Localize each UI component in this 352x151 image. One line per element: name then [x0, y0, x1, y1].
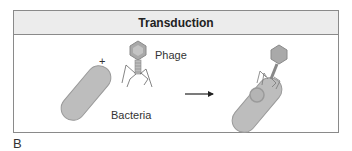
plus-sign: + — [99, 55, 105, 67]
infected-bacterium-icon — [227, 45, 287, 133]
panel-title: Transduction — [14, 11, 338, 35]
phage-label: Phage — [155, 49, 187, 61]
phage-icon — [122, 41, 152, 87]
panel-letter: B — [13, 136, 22, 151]
transduction-panel: Transduction — [13, 10, 339, 133]
bacterium-icon — [56, 61, 116, 125]
bacteria-label: Bacteria — [111, 109, 151, 121]
arrow-right-icon — [185, 91, 214, 97]
